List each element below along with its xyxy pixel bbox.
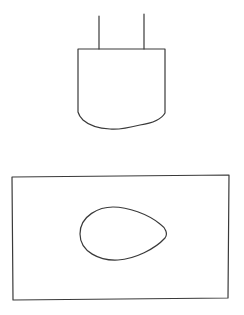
teardrop-shape (80, 207, 166, 260)
rectangle-frame (12, 175, 229, 300)
container-vessel (78, 49, 165, 129)
diagram-canvas (0, 0, 244, 315)
